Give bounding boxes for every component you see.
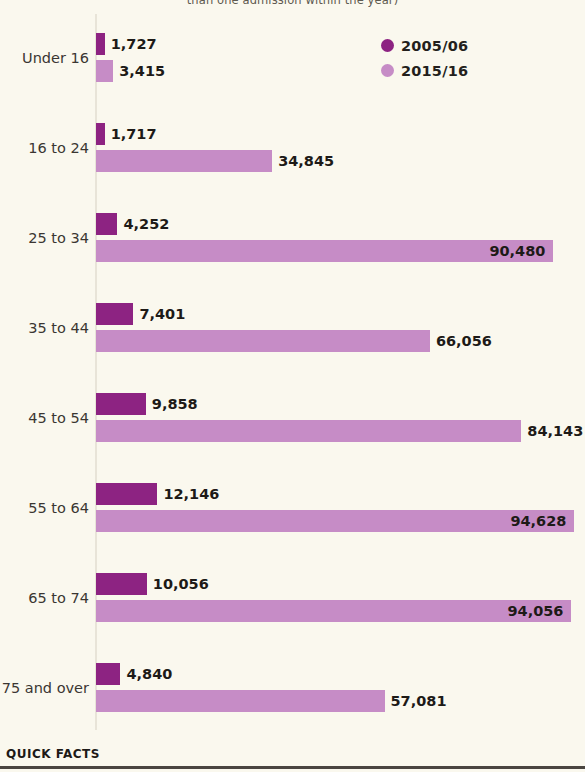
footer-divider [0,766,585,769]
chart-row: 55 to 6412,14694,628 [0,483,585,532]
bar-group-2005-06: 4,252 [96,213,117,235]
bar-2005-06-25-to-34 [96,213,117,235]
chart-row: Under 161,7273,415 [0,33,585,82]
bar-2015-16-45-to-54 [96,420,521,442]
category-label-75-and-over: 75 and over [0,681,89,696]
bar-group-2015-16: 90,480 [96,240,553,262]
bar-group-2015-16: 3,415 [96,60,113,82]
bar-group-2015-16: 57,081 [96,690,385,712]
chart-row: 16 to 241,71734,845 [0,123,585,172]
chart-row: 25 to 344,25290,480 [0,213,585,262]
bar-group-2005-06: 1,727 [96,33,105,55]
bar-value-label: 9,858 [152,393,198,415]
bar-group-2005-06: 7,401 [96,303,133,325]
chart-row: 35 to 447,40166,056 [0,303,585,352]
bar-2005-06-45-to-54 [96,393,146,415]
bar-value-label: 66,056 [436,330,492,352]
bar-value-label: 12,146 [163,483,219,505]
bar-2005-06-under-16 [96,33,105,55]
footer-quick-facts-label: QUICK FACTS [6,747,100,761]
category-label-35-to-44: 35 to 44 [0,321,89,336]
bar-value-label: 10,056 [153,573,209,595]
bar-2005-06-75-and-over [96,663,120,685]
category-label-under-16: Under 16 [0,51,89,66]
bar-2015-16-55-to-64 [96,510,574,532]
bar-value-label: 4,840 [126,663,172,685]
bar-group-2005-06: 10,056 [96,573,147,595]
bar-value-label: 4,252 [123,213,169,235]
bar-chart: than one admission within the year) 2005… [0,0,585,772]
category-label-45-to-54: 45 to 54 [0,411,89,426]
bar-value-label: 1,717 [111,123,157,145]
bar-value-label: 90,480 [489,240,545,262]
chart-rows: Under 161,7273,41516 to 241,71734,84525 … [0,0,585,772]
category-label-55-to-64: 55 to 64 [0,501,89,516]
chart-row: 75 and over4,84057,081 [0,663,585,712]
bar-value-label: 57,081 [391,690,447,712]
chart-row: 65 to 7410,05694,056 [0,573,585,622]
bar-group-2005-06: 12,146 [96,483,157,505]
bar-2005-06-16-to-24 [96,123,105,145]
bar-group-2005-06: 1,717 [96,123,105,145]
bar-group-2005-06: 9,858 [96,393,146,415]
chart-row: 45 to 549,85884,143 [0,393,585,442]
bar-value-label: 34,845 [278,150,334,172]
category-label-25-to-34: 25 to 34 [0,231,89,246]
bar-2015-16-65-to-74 [96,600,571,622]
category-label-65-to-74: 65 to 74 [0,591,89,606]
bar-value-label: 94,056 [507,600,563,622]
bar-value-label: 7,401 [139,303,185,325]
category-label-16-to-24: 16 to 24 [0,141,89,156]
bar-group-2005-06: 4,840 [96,663,120,685]
bar-value-label: 84,143 [527,420,583,442]
bar-2015-16-16-to-24 [96,150,272,172]
bar-group-2015-16: 84,143 [96,420,521,442]
bar-2005-06-65-to-74 [96,573,147,595]
bar-2005-06-55-to-64 [96,483,157,505]
bar-value-label: 3,415 [119,60,165,82]
bar-value-label: 94,628 [510,510,566,532]
bar-value-label: 1,727 [111,33,157,55]
bar-2015-16-35-to-44 [96,330,430,352]
bar-group-2015-16: 34,845 [96,150,272,172]
bar-2005-06-35-to-44 [96,303,133,325]
bar-group-2015-16: 94,628 [96,510,574,532]
bar-group-2015-16: 94,056 [96,600,571,622]
bar-2015-16-75-and-over [96,690,385,712]
bar-2015-16-25-to-34 [96,240,553,262]
bar-group-2015-16: 66,056 [96,330,430,352]
bar-2015-16-under-16 [96,60,113,82]
